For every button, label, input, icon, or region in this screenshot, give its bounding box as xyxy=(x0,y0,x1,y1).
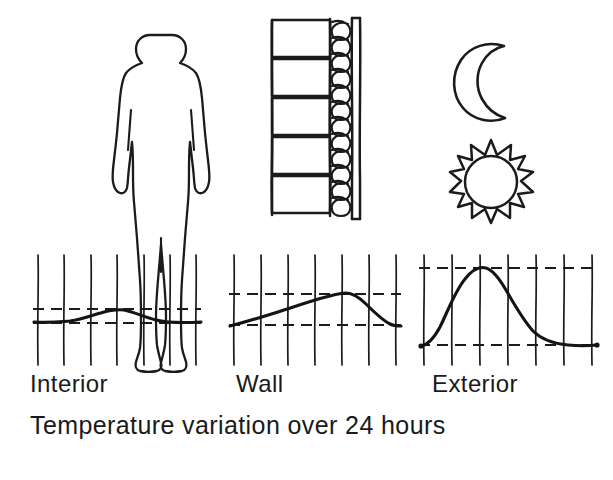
temperature-variation-figure: Interior Wall Exterior Temperature varia… xyxy=(0,0,613,480)
sun-icon xyxy=(450,140,533,223)
chart-label-exterior: Exterior xyxy=(432,372,518,396)
chart-label-interior: Interior xyxy=(30,372,108,396)
curve-endpoint-left xyxy=(418,343,423,348)
chart-label-wall: Wall xyxy=(236,372,283,396)
chart-exterior xyxy=(418,255,599,365)
chart-wall xyxy=(229,255,401,365)
wall-section-icon xyxy=(272,18,361,219)
figure-caption: Temperature variation over 24 hours xyxy=(30,413,446,438)
moon-icon xyxy=(454,44,505,121)
curve-endpoint-right xyxy=(594,342,599,347)
